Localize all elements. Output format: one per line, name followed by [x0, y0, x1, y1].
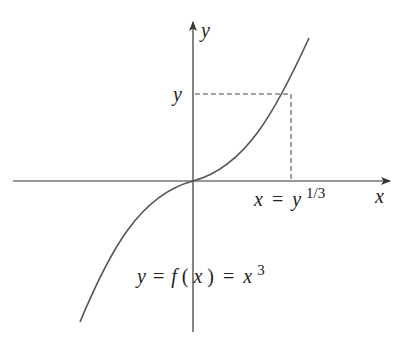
y-axis-label: y — [199, 19, 210, 42]
y-level-label: y — [171, 83, 182, 106]
x-axis-label: x — [374, 185, 384, 207]
inverse-function-label: x = y 1/3 — [253, 185, 325, 211]
cubic-function-diagram: y x y x = y 1/3 y = f ( x ) = x 3 — [0, 0, 404, 347]
function-label: y = f ( x ) = x 3 — [135, 262, 265, 288]
